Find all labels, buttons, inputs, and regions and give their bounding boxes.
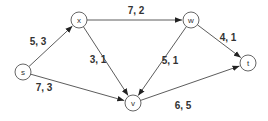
edge-label-s-x: 5, 3 (30, 36, 47, 47)
edge-label-w-v: 5, 1 (162, 55, 179, 66)
edge-label-x-v: 3, 1 (90, 54, 107, 65)
node-x: x (71, 12, 87, 28)
node-label-x: x (77, 16, 81, 25)
edge-label-x-w: 7, 2 (128, 5, 145, 16)
node-label-s: s (21, 68, 25, 77)
node-label-v: v (131, 99, 135, 108)
node-w: w (183, 12, 199, 28)
node-v: v (125, 95, 141, 111)
node-t: t (240, 55, 256, 71)
edge-label-v-t: 6, 5 (175, 100, 192, 111)
edge-label-w-t: 4, 1 (220, 32, 237, 43)
edges-layer (29, 20, 241, 101)
node-label-w: w (187, 16, 194, 25)
nodes-layer: sxwvt (15, 12, 256, 111)
edge-label-s-v: 7, 3 (36, 82, 53, 93)
node-s: s (15, 64, 31, 80)
flow-network-diagram: 5, 37, 23, 17, 35, 14, 16, 5 sxwvt (0, 0, 268, 121)
